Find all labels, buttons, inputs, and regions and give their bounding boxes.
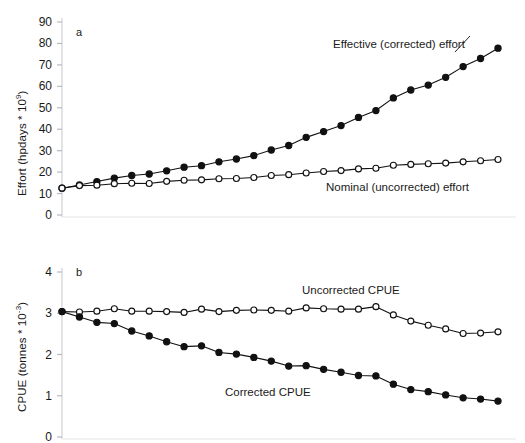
plot-area-b bbox=[0, 230, 525, 443]
y-tick-label: 1 bbox=[26, 390, 52, 402]
y-tick-label: 3 bbox=[26, 307, 52, 319]
y-tick-label: 4 bbox=[26, 266, 52, 278]
panel-letter-b: b bbox=[76, 266, 82, 278]
y-tick-label: 10 bbox=[26, 188, 52, 200]
y-tick-label: 2 bbox=[26, 349, 52, 361]
plot-area-a bbox=[0, 0, 525, 230]
y-tick-label: 90 bbox=[26, 16, 52, 28]
y-tick-label: 0 bbox=[26, 431, 52, 443]
chart-panel-a: Effort (hpdays * 109) a Effective (corre… bbox=[0, 0, 525, 230]
y-tick-label: 0 bbox=[26, 209, 52, 221]
y-tick-label: 40 bbox=[26, 123, 52, 135]
y-tick-label: 70 bbox=[26, 59, 52, 71]
y-tick-label: 60 bbox=[26, 80, 52, 92]
series-label-corrected-cpue: Corrected CPUE bbox=[225, 386, 311, 398]
y-axis-title-b-tail: ) bbox=[16, 302, 28, 306]
chart-panel-b bbox=[0, 230, 525, 443]
y-tick-label: 50 bbox=[26, 102, 52, 114]
y-tick-label: 20 bbox=[26, 166, 52, 178]
y-tick-label: 30 bbox=[26, 145, 52, 157]
y-axis-title-b-exponent: -3 bbox=[14, 306, 23, 313]
figure-container: Effort (hpdays * 109) a Effective (corre… bbox=[0, 0, 525, 443]
y-tick-label: 80 bbox=[26, 37, 52, 49]
series-label-uncorrected-cpue: Uncorrected CPUE bbox=[302, 284, 400, 296]
